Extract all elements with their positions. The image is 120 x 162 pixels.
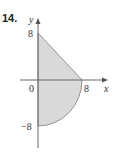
origin-label: 0 [29,83,34,94]
y-tick-neg8: −8 [21,121,32,132]
region-diagram: y x 8 0 8 −8 [0,0,120,162]
x-tick-8: 8 [84,83,89,94]
y-axis-arrow-icon [36,18,41,24]
y-axis-label: y [28,14,34,25]
x-axis-label: x [103,83,109,94]
y-tick-8: 8 [28,28,33,39]
x-axis-arrow-icon [102,78,108,83]
